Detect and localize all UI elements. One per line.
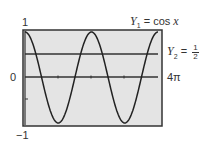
y1-legend: Y1 = cos x	[130, 15, 179, 29]
y1-name: Y	[130, 14, 137, 28]
y1-eq: = cos	[141, 15, 174, 27]
x-max-label: 4π	[167, 72, 181, 83]
y2-name: Y	[167, 44, 174, 58]
y2-eq: =	[178, 45, 191, 57]
y-max-label: 1	[22, 17, 28, 28]
y1-var: x	[173, 14, 178, 28]
y-zero-label: 0	[10, 72, 16, 83]
y-min-label: −1	[16, 130, 29, 141]
y2-legend: Y2 = 12	[167, 44, 199, 61]
y2-fraction: 12	[192, 44, 198, 61]
